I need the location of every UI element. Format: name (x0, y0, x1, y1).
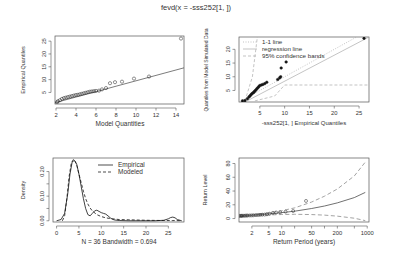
return-level-ylabel: Return Level (202, 174, 208, 205)
y-tick-label: 20 (41, 51, 47, 57)
x-tick-label: 15 (306, 110, 312, 116)
x-tick-label: 200 (333, 230, 343, 236)
data-point (241, 100, 244, 103)
y-tick-label: 0.20 (39, 166, 45, 176)
y-tick-label: 0 (225, 217, 231, 220)
data-point (285, 61, 288, 64)
y-tick-label: 15 (225, 60, 231, 66)
x-tick-label: 10 (133, 112, 139, 118)
x-tick-label: 20 (331, 110, 337, 116)
data-point (265, 81, 268, 84)
x-tick-label: 2 (54, 112, 57, 118)
figure: fevd(x = -sss252[1, ]) Model Quantities … (0, 0, 393, 263)
legend-label: regression line (262, 45, 303, 52)
data-point (279, 75, 282, 78)
x-tick-label: 10 (279, 230, 285, 236)
y-tick-label: 10 (41, 77, 47, 83)
density-ylabel: Density (20, 181, 26, 200)
return-level-xlabel: Return Period (years) (273, 238, 335, 246)
y-tick-label: 0.10 (39, 191, 45, 201)
density-xlabel: N = 36 Bandwidth = 0.694 (81, 238, 157, 245)
y-tick-label: 40 (225, 188, 231, 194)
data-point (280, 67, 283, 70)
qq-simulated-xlabel: -sss252[1, ] Empirical Quantiles (262, 120, 346, 126)
x-tick-label: 15 (120, 230, 126, 236)
legend-label: 95% confidence bands (262, 52, 325, 59)
y-tick-label: 20 (225, 202, 231, 208)
y-tick-label: 20 (225, 46, 231, 52)
x-tick-label: 5 (77, 230, 80, 236)
y-tick-label: 80 (225, 161, 231, 167)
x-tick-label: 25 (165, 230, 171, 236)
figure-title: fevd(x = -sss252[1, ]) (161, 3, 232, 12)
x-tick-label: 50 (308, 230, 314, 236)
qq-model-ylabel: Empirical Quantiles (20, 46, 26, 94)
data-point (244, 99, 247, 102)
y-tick-label: 5 (225, 89, 231, 92)
x-tick-label: 6 (94, 112, 97, 118)
y-tick-label: 15 (41, 64, 47, 70)
x-tick-label: 5 (258, 110, 261, 116)
x-tick-label: 12 (153, 112, 159, 118)
y-tick-label: 60 (225, 174, 231, 180)
data-point (363, 37, 366, 40)
qq-simulated-ylabel: Quantiles from Model Simulated Data (203, 28, 209, 111)
y-tick-label: 25 (41, 38, 47, 44)
x-tick-label: 1000 (361, 230, 374, 236)
x-tick-label: 8 (114, 112, 117, 118)
x-tick-label: 10 (98, 230, 104, 236)
x-tick-label: 0 (55, 230, 58, 236)
y-tick-label: 0.00 (39, 216, 45, 226)
x-tick-label: 5 (267, 230, 270, 236)
legend-label: Modeled (118, 168, 143, 175)
x-tick-label: 14 (173, 112, 180, 118)
qq-model-xlabel: Model Quantities (96, 120, 146, 128)
x-tick-label: 10 (281, 110, 287, 116)
y-tick-label: 10 (225, 74, 231, 80)
x-tick-label: 2 (250, 230, 253, 236)
y-tick-label: 5 (41, 91, 47, 94)
x-tick-label: 25 (356, 110, 362, 116)
legend-label: 1-1 line (262, 38, 283, 45)
x-tick-label: 20 (143, 230, 149, 236)
